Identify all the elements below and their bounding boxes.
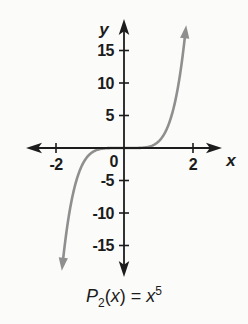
- figure: -2 2 x 15 10 5 -5 -10 -15 y 0 P2(x) = x5: [0, 0, 248, 324]
- curve-arrow-upper: [180, 25, 189, 38]
- caption-exponent: 5: [155, 284, 162, 298]
- origin-label: 0: [110, 153, 119, 170]
- curve-arrow-lower: [59, 257, 68, 270]
- y-tick-label-15: 15: [97, 42, 114, 59]
- y-tick-label-m10: -10: [92, 205, 114, 222]
- caption-subscript: 2: [98, 296, 105, 310]
- x-tick-label-neg2: -2: [49, 156, 63, 173]
- caption-function-name: P: [86, 286, 98, 306]
- caption-base: x: [146, 286, 155, 306]
- caption-argument: x: [111, 286, 120, 306]
- y-tick-label-10: 10: [97, 75, 114, 92]
- x-axis-label: x: [225, 151, 237, 170]
- caption: P2(x) = x5: [0, 284, 248, 310]
- polynomial-graph: -2 2 x 15 10 5 -5 -10 -15 y 0: [0, 0, 248, 324]
- y-tick-label-m15: -15: [92, 237, 114, 254]
- x-tick-label-pos2: 2: [189, 156, 198, 173]
- caption-equals: =: [126, 286, 147, 306]
- y-tick-label-m5: -5: [101, 172, 115, 189]
- y-tick-label-5: 5: [106, 107, 115, 124]
- y-axis-label: y: [98, 20, 110, 39]
- x-axis: -2 2 x: [26, 143, 237, 173]
